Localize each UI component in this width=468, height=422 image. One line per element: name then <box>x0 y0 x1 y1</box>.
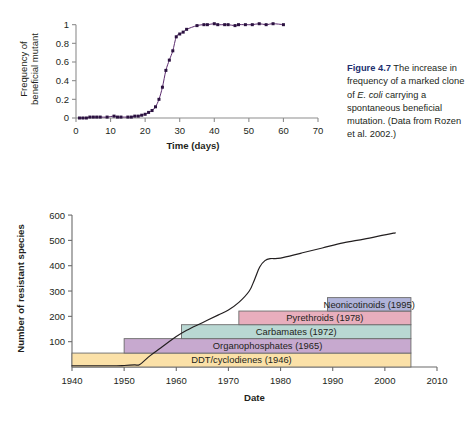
top-data-point <box>126 116 129 119</box>
bottom-ytick-label: 100 <box>49 336 65 347</box>
top-data-point <box>151 109 154 112</box>
top-ytick-label: 0.2 <box>56 94 69 105</box>
top-y-axis-title-line2: beneficial mutant <box>29 33 40 105</box>
top-data-point <box>202 23 205 26</box>
bottom-xtick-label: 2010 <box>426 375 447 386</box>
top-data-point <box>157 98 160 101</box>
top-chart: 00.20.40.60.81010203040506070Time (days)… <box>0 0 340 175</box>
top-data-point <box>106 116 109 119</box>
pesticide-band-label: Neonicotinoids (1995) <box>324 299 415 310</box>
top-data-point <box>147 111 150 114</box>
bottom-ytick-label: 500 <box>49 235 65 246</box>
top-data-point <box>265 23 268 26</box>
top-data-point <box>130 116 133 119</box>
pesticide-band-label: Pyrethroids (1978) <box>286 312 363 323</box>
top-series-line <box>79 24 283 118</box>
top-data-point <box>182 31 185 34</box>
top-data-point <box>216 23 219 26</box>
top-data-point <box>161 86 164 89</box>
top-xtick-label: 40 <box>209 125 220 136</box>
top-ytick-label: 0.4 <box>56 75 69 86</box>
top-data-point <box>272 22 275 25</box>
top-data-point <box>234 24 237 27</box>
bottom-x-axis-title: Date <box>244 392 265 403</box>
top-data-point <box>171 49 174 52</box>
figure-number: Figure 4.7 <box>347 63 391 73</box>
bottom-y-axis-title: Number of resistant species <box>15 224 26 353</box>
top-xtick-label: 10 <box>105 125 116 136</box>
top-data-point <box>140 114 143 117</box>
top-data-point <box>119 116 122 119</box>
top-data-point <box>78 117 81 120</box>
figure-caption-species: E. coli <box>357 90 382 100</box>
bottom-ytick-label: 300 <box>49 286 65 297</box>
bottom-chart: 1002003004005006001940195019601970198019… <box>0 180 468 422</box>
top-data-point <box>88 116 91 119</box>
top-data-point <box>244 23 247 26</box>
bottom-ytick-label: 400 <box>49 260 65 271</box>
bottom-ytick-label: 200 <box>49 311 65 322</box>
top-data-point <box>196 24 199 27</box>
top-data-point <box>282 23 285 26</box>
top-ytick-label: 0.8 <box>56 38 69 49</box>
top-data-point <box>116 116 119 119</box>
top-data-point <box>92 116 95 119</box>
top-xtick-label: 50 <box>244 125 255 136</box>
top-data-point <box>81 117 84 120</box>
pesticide-band-label: DDT/cyclodienes (1946) <box>191 354 292 365</box>
top-data-point <box>227 23 230 26</box>
top-data-point <box>164 69 167 72</box>
top-data-point <box>137 115 140 118</box>
top-data-point <box>85 117 88 120</box>
top-ytick-label: 0 <box>64 112 69 123</box>
top-data-point <box>223 23 226 26</box>
figure-page: 00.20.40.60.81010203040506070Time (days)… <box>0 0 468 422</box>
top-data-point <box>175 35 178 38</box>
bottom-xtick-label: 1950 <box>114 375 135 386</box>
top-xtick-label: 20 <box>140 125 151 136</box>
bottom-xtick-label: 1940 <box>61 375 82 386</box>
top-xtick-label: 0 <box>73 125 78 136</box>
top-ytick-label: 0.6 <box>56 56 69 67</box>
top-xtick-label: 70 <box>313 125 324 136</box>
bottom-xtick-label: 2000 <box>374 375 395 386</box>
bottom-ytick-label: 600 <box>49 210 65 221</box>
top-xtick-label: 60 <box>278 125 289 136</box>
top-data-point <box>95 116 98 119</box>
figure-caption: Figure 4.7 The increase in frequency of … <box>347 62 465 142</box>
top-data-point <box>113 115 116 118</box>
top-data-point <box>178 33 181 36</box>
top-y-axis-title-line1: Frequency of <box>18 41 29 97</box>
top-data-point <box>185 28 188 31</box>
top-xtick-label: 30 <box>174 125 185 136</box>
top-ytick-label: 1 <box>64 19 69 30</box>
top-data-point <box>133 115 136 118</box>
top-data-point <box>206 23 209 26</box>
top-data-point <box>168 59 171 62</box>
bottom-xtick-label: 1980 <box>270 375 291 386</box>
top-data-point <box>144 113 147 116</box>
pesticide-band-label: Carbamates (1972) <box>256 326 337 337</box>
bottom-xtick-label: 1970 <box>218 375 239 386</box>
top-x-axis-title: Time (days) <box>166 140 219 151</box>
pesticide-band-label: Organophosphates (1965) <box>213 340 322 351</box>
top-data-point <box>251 23 254 26</box>
bottom-xtick-label: 1960 <box>166 375 187 386</box>
top-data-point <box>213 22 216 25</box>
bottom-xtick-label: 1990 <box>322 375 343 386</box>
top-data-point <box>258 22 261 25</box>
top-data-point <box>99 116 102 119</box>
top-data-point <box>237 23 240 26</box>
top-data-point <box>154 105 157 108</box>
